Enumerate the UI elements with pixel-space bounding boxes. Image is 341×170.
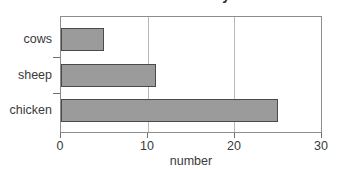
x-axis-tick-0 — [60, 133, 61, 138]
x-axis-ticklabel-20: 20 — [219, 139, 249, 153]
bar-chicken — [61, 99, 278, 122]
bar-cows — [61, 28, 104, 51]
x-axis-ticklabel-0: 0 — [45, 139, 75, 153]
x-axis-tick-30 — [321, 133, 322, 138]
bar-cows-rect — [61, 28, 104, 51]
x-axis-ticklabel-30: 30 — [306, 139, 336, 153]
x-axis-tick-20 — [234, 133, 235, 138]
x-axis-ticklabel-10: 10 — [132, 139, 162, 153]
bar-sheep — [61, 64, 156, 87]
y-axis-label-chicken: chicken — [10, 103, 52, 117]
x-axis-tick-10 — [147, 133, 148, 138]
x-axis-title: number — [60, 154, 322, 168]
bar-chicken-rect — [61, 99, 278, 122]
y-axis-label-cows: cows — [24, 32, 52, 46]
bar-sheep-rect — [61, 64, 156, 87]
y-axis-label-sheep: sheep — [18, 68, 52, 82]
bar-chart-figure: Animals in the barnyard cows sheep chick… — [0, 0, 341, 170]
plot-area — [60, 16, 322, 133]
